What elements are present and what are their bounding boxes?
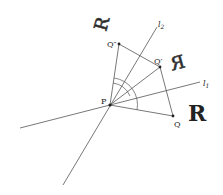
point-P bbox=[108, 103, 111, 106]
svg-text:R: R bbox=[168, 51, 187, 75]
point-Q1 bbox=[159, 66, 162, 69]
label-Q2: Q″ bbox=[107, 40, 117, 49]
glyph-R-rotated: R bbox=[90, 14, 114, 33]
glyph-R-original: R bbox=[188, 100, 207, 126]
point-Q bbox=[172, 115, 175, 118]
label-Q1: Q′ bbox=[154, 57, 163, 66]
glyph-R-reflected: R bbox=[168, 51, 187, 75]
rotation-reflection-diagram: P Q Q′ Q″ l1 l2 R R R bbox=[0, 0, 223, 195]
angle-arc-inner bbox=[113, 83, 130, 96]
label-l2: l2 bbox=[158, 20, 165, 30]
svg-text:R: R bbox=[90, 14, 114, 33]
segment-PQ bbox=[110, 105, 173, 116]
label-P: P bbox=[101, 97, 107, 106]
label-l1: l1 bbox=[203, 79, 209, 89]
segment-PQ1 bbox=[110, 67, 160, 105]
point-Q2 bbox=[118, 43, 121, 46]
segment-PQ2 bbox=[110, 44, 119, 105]
label-Q: Q bbox=[174, 120, 181, 129]
